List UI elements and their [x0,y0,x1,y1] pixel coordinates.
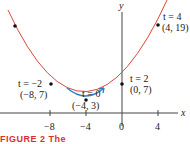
x-tick-label: −8 [44,121,55,132]
x-axis-label: x [180,107,186,118]
point-label-t: t = −2 [18,78,42,89]
parametric-curve-chart: x y −8 −4 0 4 t = −2 (−8, 7) t = 0 (−4, … [0,0,190,144]
data-point-t-minus-2 [49,82,53,86]
y-axis-label: y [118,0,124,11]
x-tick-label: 4 [155,121,160,132]
x-tick-label: −4 [80,121,91,132]
figure-caption: FIGURE 2 The [0,134,66,144]
point-label-t: t = 2 [130,73,148,84]
point-label-t: t = 4 [163,11,181,22]
point-label-coord: (−4, 3) [72,100,99,112]
point-label-coord: (0, 7) [130,84,152,96]
data-point-t-4 [156,23,160,27]
data-point-t-2 [120,82,124,86]
data-point [13,24,17,28]
point-label-t: t = 0 [82,88,100,99]
point-label-coord: (4, 19) [162,22,189,34]
point-label-coord: (−8, 7) [20,89,47,101]
x-tick-label: 0 [119,121,124,132]
